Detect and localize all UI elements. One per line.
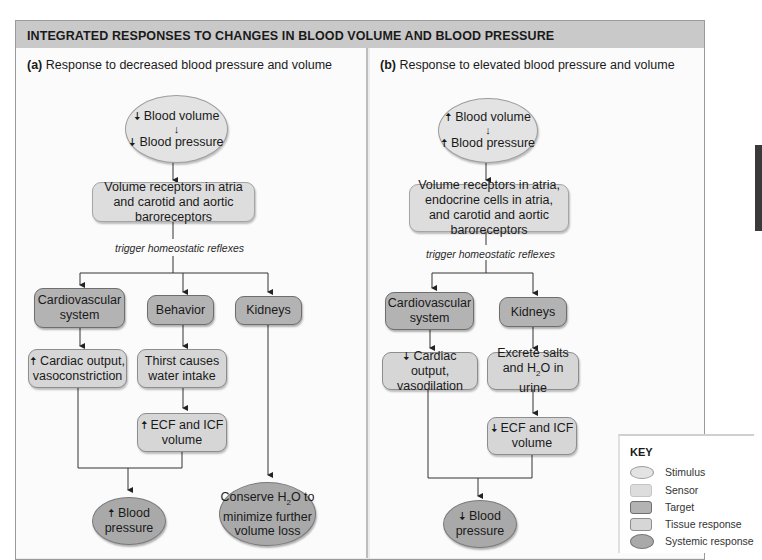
down-arrow-icon: ↓ [174, 124, 180, 135]
tissue-text: Cardiac output, vasoconstriction [33, 354, 125, 383]
down-arrow-icon: ↓ [485, 125, 491, 136]
page-edge-tab [755, 145, 762, 231]
sensor-node-b: Volume receptors in atria, endocrine cel… [409, 184, 569, 232]
stimulus-node-a: 🠇Blood volume ↓ 🠇Blood pressure [125, 95, 228, 163]
key-item-sensor: Sensor [630, 482, 698, 498]
key-item-tissue-response: Tissue response [630, 516, 742, 532]
systemic-node-blood-pressure-a: 🠅Blood pressure [92, 497, 166, 545]
sensor-swatch-icon [630, 484, 652, 497]
key-item-target: Target [630, 499, 694, 515]
tissue-text: Thirst causes water intake [138, 354, 226, 384]
reflex-label-b: trigger homeostatic reflexes [426, 248, 555, 260]
systemic-text: Conserve H2O to minimize further volume … [220, 490, 315, 538]
target-swatch-icon [630, 501, 652, 514]
stimulus-text-1: Blood volume [144, 109, 220, 123]
up-arrow-icon: 🠅 [30, 354, 37, 368]
key-item-stimulus: Stimulus [630, 464, 705, 480]
target-node-cardiovascular-b: Cardiovascular system [385, 292, 474, 330]
down-arrow-icon: 🠇 [491, 421, 498, 435]
tissue-node-excrete-salts: Excrete salts and H2O in urine [487, 352, 579, 390]
down-arrow-icon: 🠇 [129, 135, 136, 149]
target-node-cardiovascular-a: Cardiovascular system [34, 288, 125, 328]
key-title: KEY [630, 446, 653, 458]
key-label: Systemic response [665, 535, 754, 547]
tissue-text: Excrete salts and H2O in urine [488, 346, 578, 396]
target-node-behavior: Behavior [147, 295, 214, 325]
stimulus-line2: 🠅Blood pressure [441, 136, 535, 151]
up-arrow-icon: 🠅 [108, 506, 115, 520]
legend-key: KEY Stimulus Sensor Target Tissue respon… [618, 434, 754, 553]
sensor-node-a: Volume receptors in atria and carotid an… [92, 182, 255, 222]
up-arrow-icon: 🠅 [141, 418, 148, 432]
stimulus-line2: 🠇Blood pressure [129, 135, 223, 150]
systemic-node-conserve-water: Conserve H2O to minimize further volume … [219, 482, 316, 546]
systemic-response-swatch-icon [630, 534, 654, 549]
tissue-response-swatch-icon [630, 518, 652, 531]
key-label: Stimulus [665, 466, 705, 478]
stimulus-line1: 🠅Blood volume [445, 110, 531, 125]
down-arrow-icon: 🠇 [403, 349, 410, 363]
key-label: Target [665, 501, 694, 513]
tissue-node-thirst: Thirst causes water intake [137, 349, 227, 388]
tissue-text: ECF and ICF volume [151, 418, 224, 447]
up-arrow-icon: 🠅 [441, 136, 448, 150]
stimulus-text-2: Blood pressure [451, 136, 535, 150]
tissue-node-ecf-icf-a: 🠅ECF and ICF volume [137, 413, 227, 452]
key-label: Tissue response [665, 518, 742, 530]
up-arrow-icon: 🠅 [445, 110, 452, 124]
target-node-kidneys-a: Kidneys [235, 296, 302, 325]
tissue-node-ecf-icf-b: 🠇ECF and ICF volume [487, 417, 577, 455]
key-item-systemic-response: Systemic response [630, 533, 754, 549]
stimulus-text-1: Blood volume [455, 110, 531, 124]
reflex-label-a: trigger homeostatic reflexes [115, 242, 244, 254]
tissue-node-cardiac-output-b: 🠇Cardiac output, vasodilation [382, 352, 478, 390]
down-arrow-icon: 🠇 [134, 109, 141, 123]
systemic-node-blood-pressure-b: 🠇Blood pressure [443, 500, 517, 548]
down-arrow-icon: 🠇 [459, 509, 466, 523]
stimulus-swatch-icon [630, 466, 654, 479]
tissue-node-cardiac-output-a: 🠅Cardiac output, vasoconstriction [28, 349, 127, 388]
stimulus-node-b: 🠅Blood volume ↓ 🠅Blood pressure [438, 98, 538, 163]
tissue-text: ECF and ICF volume [501, 421, 574, 450]
stimulus-line1: 🠇Blood volume [134, 109, 220, 124]
stimulus-text-2: Blood pressure [139, 135, 223, 149]
target-node-kidneys-b: Kidneys [499, 297, 567, 327]
key-label: Sensor [665, 484, 698, 496]
